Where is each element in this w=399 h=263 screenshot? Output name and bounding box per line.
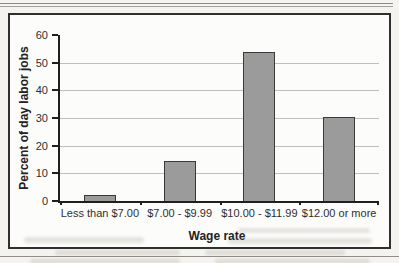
chart-figure-frame: Percent of day labor jobs 0102030405060L…: [8, 13, 391, 249]
bar-0: [84, 195, 116, 201]
x-tick-4: [377, 201, 379, 205]
y-tick-label-30: 30: [18, 112, 48, 124]
x-tick-1: [140, 201, 142, 205]
plot-area: 0102030405060Less than $7.00$7.00 - $9.9…: [58, 35, 379, 203]
y-tick-60: [52, 34, 58, 36]
y-tick-0: [52, 200, 58, 202]
x-tick-0: [60, 201, 62, 205]
y-tick-label-20: 20: [18, 140, 48, 152]
bleed-smudge: [30, 259, 180, 263]
x-category-label-0: Less than $7.00: [54, 207, 146, 219]
bleed-smudge: [238, 228, 370, 233]
gridline-50: [60, 63, 379, 64]
x-category-label-3: $12.00 or more: [293, 207, 385, 219]
y-tick-40: [52, 89, 58, 91]
bleed-smudge: [24, 237, 144, 243]
y-tick-label-40: 40: [18, 84, 48, 96]
gridline-40: [60, 90, 379, 91]
bleed-smudge: [205, 250, 345, 255]
y-tick-label-10: 10: [18, 167, 48, 179]
top-double-rule-lower: [0, 6, 393, 7]
y-tick-20: [52, 145, 58, 147]
bottom-rule: [0, 256, 399, 257]
y-tick-label-0: 0: [18, 195, 48, 207]
scanned-document-page: Percent of day labor jobs 0102030405060L…: [0, 0, 399, 263]
x-category-label-1: $7.00 - $9.99: [134, 207, 226, 219]
y-tick-label-60: 60: [18, 29, 48, 41]
bar-1: [164, 161, 196, 201]
bar-2: [243, 52, 275, 201]
y-tick-label-50: 50: [18, 57, 48, 69]
y-tick-30: [52, 117, 58, 119]
bleed-smudge: [228, 238, 372, 244]
bleed-smudge: [55, 250, 180, 255]
top-double-rule-upper: [0, 3, 393, 4]
x-tick-2: [220, 201, 222, 205]
y-tick-10: [52, 172, 58, 174]
x-tick-3: [299, 201, 301, 205]
bar-3: [323, 117, 355, 201]
y-tick-50: [52, 62, 58, 64]
x-category-label-2: $10.00 - $11.99: [213, 207, 305, 219]
bleed-smudge: [215, 259, 370, 263]
